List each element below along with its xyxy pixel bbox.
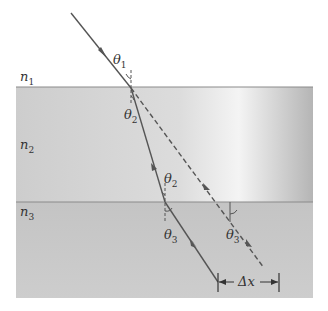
theta1-label: θ1 bbox=[113, 53, 127, 70]
theta3-label-solid: θ3 bbox=[164, 228, 178, 245]
theta2-label-lower: θ2 bbox=[164, 172, 178, 189]
medium-3-layer bbox=[16, 202, 313, 298]
n3-label: n3 bbox=[20, 205, 34, 222]
diagram-canvas bbox=[0, 0, 328, 311]
theta2-label-upper: θ2 bbox=[124, 108, 138, 125]
theta3-label-dashed: θ3 bbox=[226, 228, 240, 245]
delta-x-label: Δx bbox=[238, 275, 255, 288]
refraction-diagram: n1 n2 n3 θ1 θ2 θ2 θ3 θ3 Δx bbox=[0, 0, 328, 311]
n2-label: n2 bbox=[20, 138, 34, 155]
n1-label: n1 bbox=[20, 70, 34, 87]
